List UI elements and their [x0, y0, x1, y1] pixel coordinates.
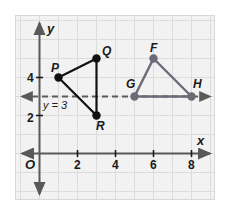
vertex-h — [187, 92, 195, 100]
vertex-q — [92, 54, 100, 62]
x-tick-4: 4 — [112, 159, 119, 171]
label-f: F — [150, 42, 157, 54]
label-q: Q — [102, 45, 111, 57]
x-axis-label: x — [197, 134, 204, 147]
coordinate-plane-figure: y x O 2 4 6 8 4 2 y = 3 P Q R F G H — [0, 0, 229, 217]
label-h: H — [193, 78, 202, 90]
y-axis-label: y — [47, 22, 54, 35]
x-tick-2: 2 — [74, 159, 81, 171]
y-tick-4: 4 — [27, 72, 34, 84]
origin-label: O — [25, 158, 35, 171]
plot-area: y x O 2 4 6 8 4 2 y = 3 P Q R F G H — [15, 15, 215, 200]
label-p: P — [51, 62, 59, 74]
x-tick-8: 8 — [188, 159, 195, 171]
axis-ticks — [36, 78, 192, 158]
vertex-g — [130, 92, 138, 100]
label-g: G — [126, 78, 135, 90]
figure-fgh-vertices — [130, 54, 195, 100]
label-r: R — [96, 120, 105, 132]
x-tick-6: 6 — [150, 159, 157, 171]
figure-fgh — [135, 59, 192, 97]
vertex-f — [149, 54, 157, 62]
y-tick-2: 2 — [27, 112, 34, 124]
line-equation-label: y = 3 — [43, 100, 67, 111]
